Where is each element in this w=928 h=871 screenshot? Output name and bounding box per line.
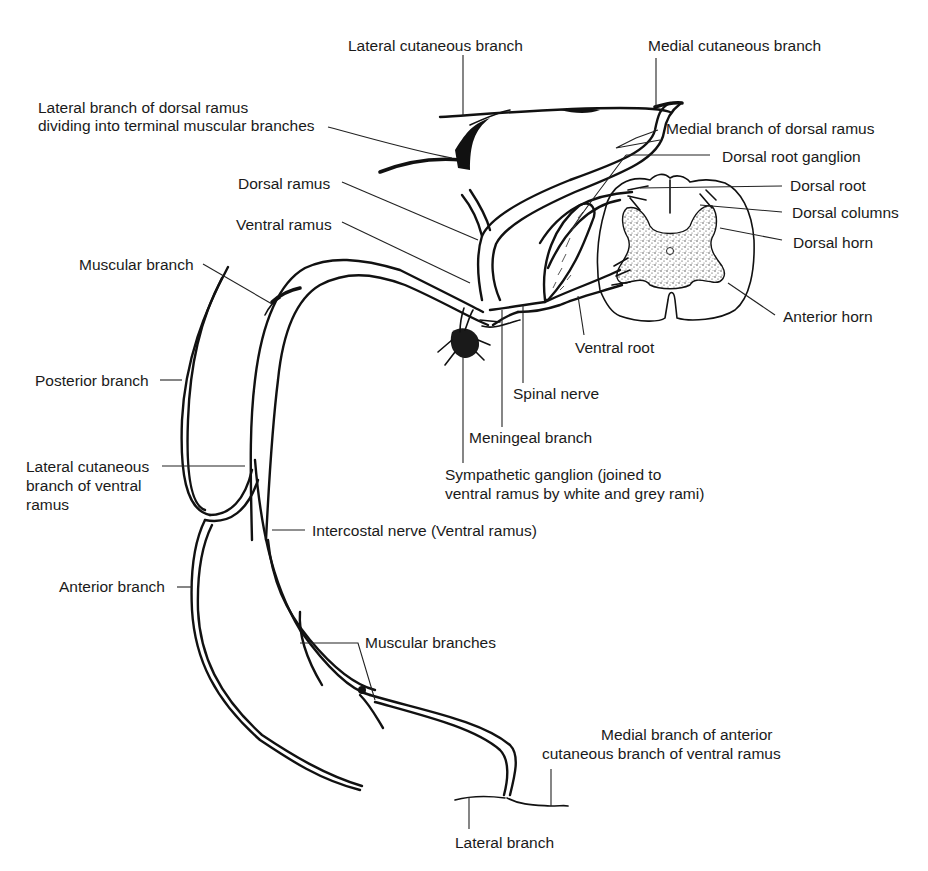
label-medial-branch-anterior-2: cutaneous branch of ventral ramus (542, 745, 781, 762)
label-intercostal-nerve: Intercostal nerve (Ventral ramus) (312, 522, 537, 539)
label-lateral-branch-dorsal-ramus-2: dividing into terminal muscular branches (38, 117, 315, 134)
spinal-cord (597, 174, 754, 321)
label-lateral-branch: Lateral branch (455, 834, 554, 851)
label-spinal-nerve: Spinal nerve (513, 385, 599, 402)
label-dorsal-columns: Dorsal columns (792, 204, 899, 221)
label-medial-branch-dorsal-ramus: Medial branch of dorsal ramus (666, 120, 875, 137)
label-medial-cutaneous-branch: Medial cutaneous branch (648, 37, 821, 54)
label-anterior-horn: Anterior horn (783, 308, 873, 325)
label-muscular-branches: Muscular branches (365, 634, 496, 651)
label-dorsal-ramus: Dorsal ramus (238, 175, 330, 192)
label-lateral-cutaneous-ventral-2: branch of ventral (26, 477, 141, 494)
label-dorsal-horn: Dorsal horn (793, 234, 873, 251)
spinal-nerve-diagram: Lateral cutaneous branch Medial cutaneou… (0, 0, 928, 871)
label-anterior-branch: Anterior branch (59, 578, 165, 595)
label-lateral-branch-dorsal-ramus: Lateral branch of dorsal ramus (38, 99, 248, 116)
label-sympathetic-ganglion: Sympathetic ganglion (joined to (445, 466, 661, 483)
label-sympathetic-ganglion-2: ventral ramus by white and grey rami) (445, 485, 704, 502)
label-muscular-branch: Muscular branch (79, 256, 194, 273)
label-dorsal-root-ganglion: Dorsal root ganglion (722, 148, 861, 165)
label-posterior-branch: Posterior branch (35, 372, 149, 389)
label-meningeal-branch: Meningeal branch (469, 429, 592, 446)
label-ventral-root: Ventral root (575, 339, 655, 356)
spinal-nerve-trunk (182, 103, 682, 806)
label-dorsal-root: Dorsal root (790, 177, 866, 194)
label-medial-branch-anterior: Medial branch of anterior (601, 726, 772, 743)
label-lateral-cutaneous-branch: Lateral cutaneous branch (348, 37, 523, 54)
label-lateral-cutaneous-ventral: Lateral cutaneous (26, 458, 149, 475)
label-lateral-cutaneous-ventral-3: ramus (26, 496, 69, 513)
label-ventral-ramus: Ventral ramus (236, 216, 332, 233)
